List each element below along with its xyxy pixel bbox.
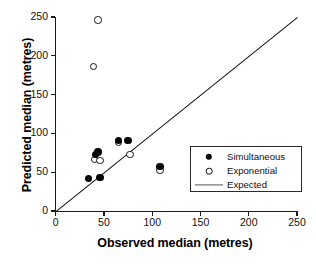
- legend-box: Simultaneous Exponential Expected: [190, 146, 302, 192]
- y-axis-title-wrapper: Predicted median (metres): [20, 5, 40, 225]
- x-tick-label: 50: [84, 217, 124, 228]
- x-tick: [200, 212, 201, 216]
- x-axis-title: Observed median (metres): [40, 236, 310, 250]
- legend-label-exponential: Exponential: [227, 166, 277, 176]
- y-tick: [51, 210, 55, 211]
- x-tick-label: 200: [229, 217, 269, 228]
- x-axis-line: [55, 211, 298, 212]
- data-point-simultaneous: [156, 163, 163, 170]
- y-tick: [51, 172, 55, 173]
- legend-label-expected: Expected: [227, 180, 267, 190]
- data-point-simultaneous: [94, 148, 101, 155]
- plot-area: 050100150200250 050100150200250 Observed…: [0, 0, 316, 272]
- data-point-exponential: [126, 151, 133, 158]
- x-tick: [296, 212, 297, 216]
- open-circle-icon: [191, 164, 227, 178]
- x-tick: [248, 212, 249, 216]
- legend-item-expected[interactable]: Expected: [191, 178, 303, 192]
- line-icon: [191, 178, 227, 192]
- y-tick: [51, 16, 55, 17]
- data-point-exponential: [96, 157, 103, 164]
- legend-label-simultaneous: Simultaneous: [227, 152, 285, 162]
- data-point-simultaneous: [124, 137, 131, 144]
- y-tick: [51, 94, 55, 95]
- x-tick-label: 150: [180, 217, 220, 228]
- y-axis-title: Predicted median (metres): [20, 5, 34, 225]
- y-tick: [51, 55, 55, 56]
- y-axis-line: [55, 17, 56, 212]
- x-tick-label: 250: [277, 217, 316, 228]
- legend-item-exponential[interactable]: Exponential: [191, 164, 303, 178]
- x-tick: [103, 212, 104, 216]
- y-tick: [51, 133, 55, 134]
- scatter-plot-figure: 050100150200250 050100150200250 Observed…: [0, 0, 316, 272]
- data-point-exponential: [90, 63, 97, 70]
- x-tick: [152, 212, 153, 216]
- data-point-exponential: [94, 16, 101, 23]
- legend-item-simultaneous[interactable]: Simultaneous: [191, 150, 303, 164]
- x-tick-label: 0: [36, 217, 76, 228]
- x-tick-label: 100: [132, 217, 172, 228]
- data-point-simultaneous: [96, 174, 103, 181]
- filled-circle-icon: [191, 150, 227, 164]
